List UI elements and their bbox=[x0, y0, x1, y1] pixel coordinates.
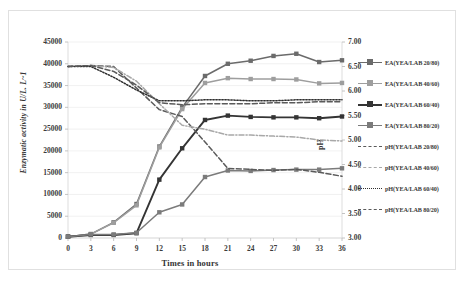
series-marker bbox=[317, 167, 321, 171]
legend-swatch bbox=[358, 121, 382, 131]
series-marker bbox=[271, 115, 275, 119]
legend-item-label: EA(YEA/LAB 40/60) bbox=[385, 80, 439, 87]
y2-axis-tick-label: 7.00 bbox=[348, 37, 378, 46]
y-axis-tick-label: 35000 bbox=[32, 81, 62, 90]
legend-item-label: pH(YEA/LAB 40/60) bbox=[385, 164, 439, 171]
x-axis-tick-label: 18 bbox=[195, 244, 215, 253]
series-marker bbox=[340, 81, 344, 85]
series-marker bbox=[111, 232, 115, 236]
legend-item-label: EA(YEA/LAB 80/20) bbox=[385, 122, 439, 129]
legend-swatch bbox=[358, 184, 382, 194]
legend-item[interactable]: EA(YEA/LAB 20/80) bbox=[358, 52, 462, 73]
series-marker bbox=[203, 175, 207, 179]
legend-square-marker-icon bbox=[367, 59, 373, 65]
series-marker bbox=[340, 166, 344, 170]
series-marker bbox=[271, 77, 275, 81]
series-marker bbox=[248, 115, 252, 119]
series-marker bbox=[157, 210, 161, 214]
series-marker bbox=[203, 81, 207, 85]
legend-item[interactable]: EA(YEA/LAB 60/40) bbox=[358, 94, 462, 115]
legend-item-label: EA(YEA/LAB 20/80) bbox=[385, 59, 439, 66]
series-marker bbox=[248, 77, 252, 81]
legend-item[interactable]: pH(YEA/LAB 60/40) bbox=[358, 178, 462, 199]
series-marker bbox=[294, 77, 298, 81]
series-marker bbox=[317, 81, 321, 85]
legend-line-icon bbox=[358, 146, 382, 147]
y-axis-tick-label: 45000 bbox=[32, 37, 62, 46]
x-axis-tick-label: 24 bbox=[241, 244, 261, 253]
series-marker bbox=[180, 107, 184, 111]
series-marker bbox=[340, 114, 344, 118]
legend-swatch bbox=[358, 79, 382, 89]
legend-swatch bbox=[358, 205, 382, 215]
series-marker bbox=[157, 145, 161, 149]
series-marker bbox=[317, 116, 321, 120]
series-marker bbox=[180, 202, 184, 206]
x-axis-tick-label: 0 bbox=[58, 244, 78, 253]
legend-square-marker-icon bbox=[367, 80, 373, 86]
x-axis-tick-label: 6 bbox=[104, 244, 124, 253]
x-axis-tick-label: 21 bbox=[218, 244, 238, 253]
legend-square-marker-icon bbox=[367, 101, 373, 107]
y-axis-tick-label: 20000 bbox=[32, 146, 62, 155]
series-marker bbox=[89, 232, 93, 236]
series-marker bbox=[294, 115, 298, 119]
x-axis-tick-label: 27 bbox=[264, 244, 284, 253]
x-axis-tick-label: 12 bbox=[149, 244, 169, 253]
legend-item-label: pH(YEA/LAB 20/80) bbox=[385, 143, 439, 150]
series-marker bbox=[134, 203, 138, 207]
series-marker bbox=[248, 59, 252, 63]
x-axis-tick-label: 30 bbox=[286, 244, 306, 253]
series-marker bbox=[111, 221, 115, 225]
y2-axis-tick-label: 3.00 bbox=[348, 233, 378, 242]
series-marker bbox=[134, 231, 138, 235]
legend-swatch bbox=[358, 163, 382, 173]
y-axis-tick-label: 10000 bbox=[32, 189, 62, 198]
series-marker bbox=[203, 118, 207, 122]
chart-legend: EA(YEA/LAB 20/80)EA(YEA/LAB 40/60)EA(YEA… bbox=[358, 52, 462, 220]
legend-item[interactable]: pH(YEA/LAB 40/60) bbox=[358, 157, 462, 178]
legend-item-label: pH(YEA/LAB 60/40) bbox=[385, 185, 439, 192]
y-axis-tick-label: 25000 bbox=[32, 124, 62, 133]
series-marker bbox=[271, 54, 275, 58]
y-axis-tick-label: 0 bbox=[32, 233, 62, 242]
legend-line-icon bbox=[358, 167, 382, 168]
y-axis-tick-label: 15000 bbox=[32, 168, 62, 177]
x-axis-tick-label: 15 bbox=[172, 244, 192, 253]
legend-item-label: EA(YEA/LAB 60/40) bbox=[385, 101, 439, 108]
legend-line-icon bbox=[358, 209, 382, 210]
legend-swatch bbox=[358, 58, 382, 68]
legend-item[interactable]: pH(YEA/LAB 80/20) bbox=[358, 199, 462, 220]
series-marker bbox=[226, 113, 230, 117]
x-axis-tick-label: 36 bbox=[332, 244, 352, 253]
y-axis-tick-label: 5000 bbox=[32, 211, 62, 220]
series-marker bbox=[294, 52, 298, 56]
legend-item[interactable]: EA(YEA/LAB 80/20) bbox=[358, 115, 462, 136]
x-axis-tick-label: 9 bbox=[127, 244, 147, 253]
series-marker bbox=[317, 60, 321, 64]
legend-swatch bbox=[358, 142, 382, 152]
x-axis-tick-label: 33 bbox=[309, 244, 329, 253]
y-axis-tick-label: 40000 bbox=[32, 59, 62, 68]
series-marker bbox=[66, 234, 70, 238]
legend-item-label: pH(YEA/LAB 80/20) bbox=[385, 206, 439, 213]
legend-item[interactable]: pH(YEA/LAB 20/80) bbox=[358, 136, 462, 157]
series-marker bbox=[203, 74, 207, 78]
series-marker bbox=[226, 62, 230, 66]
series-marker bbox=[157, 177, 161, 181]
legend-square-marker-icon bbox=[367, 122, 373, 128]
legend-item[interactable]: EA(YEA/LAB 40/60) bbox=[358, 73, 462, 94]
legend-swatch bbox=[358, 100, 382, 110]
series-marker bbox=[226, 76, 230, 80]
series-marker bbox=[180, 146, 184, 150]
x-axis-tick-label: 3 bbox=[81, 244, 101, 253]
y-axis-tick-label: 30000 bbox=[32, 102, 62, 111]
legend-line-icon bbox=[358, 188, 382, 189]
series-marker bbox=[340, 58, 344, 62]
